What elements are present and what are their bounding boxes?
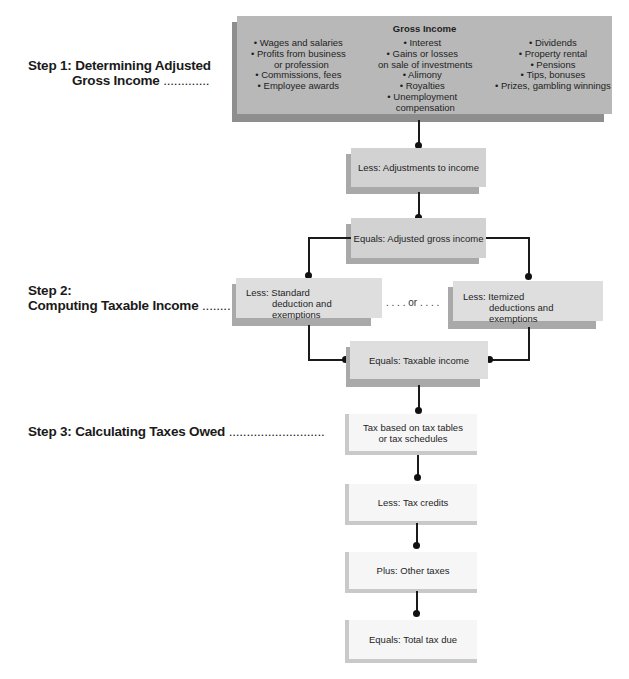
step-2-line2-wrap: Computing Taxable Income ........ [28,298,230,313]
connector-line [308,325,310,360]
taxable-income-box: Equals: Taxable income [346,341,488,387]
gross-income-title: Gross Income [237,23,612,34]
gross-income-face: Gross Income • Wages and salaries • Prof… [237,16,612,114]
agi-box: Equals: Adjusted gross income [346,218,486,264]
or-text: . . . . or . . . . [386,297,439,308]
list-item: • Employee awards [251,81,346,92]
step-1-line1: Step 1: Determining Adjusted [28,58,211,73]
income-column-1: • Wages and salaries • Profits from busi… [251,38,346,92]
tax-credits-box: Less: Tax credits [345,484,477,525]
step-3-leader: ........................... [229,424,325,439]
connector-line [528,327,530,360]
box-shadow [345,521,477,525]
step-3-line1: Step 3: Calculating Taxes Owed [28,424,225,439]
box-face: Less: Standard deduction and exemptions [236,278,382,318]
step-1-line2: Gross Income [72,73,160,88]
income-column-2: • Interest • Gains or losses on sale of … [372,38,473,114]
connector-line [308,237,310,277]
tax-based-box: Tax based on tax tables or tax schedules [345,414,477,455]
box-shadow [345,659,477,663]
adjustments-box: Less: Adjustments to income [346,148,486,194]
step-3-label: Step 3: Calculating Taxes Owed .........… [28,424,325,439]
box-face: Less: Tax credits [349,484,477,521]
connector-dot [413,610,420,617]
total-tax-due-label: Equals: Total tax due [369,634,457,645]
list-item: • Profits from business [251,49,346,60]
connector-line [528,237,530,277]
box-face: Less: Itemized deductions and exemptions [453,281,603,321]
connector-dot [414,474,421,481]
box-face: Plus: Other taxes [349,552,477,589]
connector-dot [415,407,422,414]
list-item: • Property rental [495,49,611,60]
box-shadow [345,589,477,593]
standard-deduction-box: Less: Standard deduction and exemptions [232,278,382,326]
connector-line [308,237,351,239]
step-2-line2: Computing Taxable Income [28,298,198,313]
connector-line [490,359,530,361]
box-face: Equals: Taxable income [350,341,488,379]
total-tax-due-box: Equals: Total tax due [345,620,477,663]
itemized-label-line2: deductions and exemptions [463,302,603,324]
adjustments-label: Less: Adjustments to income [358,162,479,173]
list-item: • Prizes, gambling winnings [495,81,611,92]
income-column-3: • Dividends • Property rental • Pensions… [495,38,611,92]
itemized-deduction-box: Less: Itemized deductions and exemptions [448,281,603,329]
step-1-leader: ............. [163,73,209,88]
other-taxes-label: Plus: Other taxes [377,565,450,576]
list-item: compensation [372,103,473,114]
box-face: Equals: Total tax due [349,620,477,659]
box-shadow [345,451,477,455]
connector-dot [413,542,420,549]
list-item: • Gains or losses [372,49,473,60]
standard-label-line1: Less: Standard [246,287,382,298]
tax-based-label-line2: or tax schedules [378,433,447,444]
box-face: Equals: Adjusted gross income [351,218,486,258]
standard-label-line2: deduction and exemptions [246,298,382,320]
itemized-label-line1: Less: Itemized [463,291,603,302]
or-separator: . . . . or . . . . [386,297,439,308]
step-2-line1: Step 2: [28,283,230,298]
step-2-label: Step 2: Computing Taxable Income .......… [28,283,230,313]
step-1-label: Step 1: Determining Adjusted Gross Incom… [28,58,211,88]
connector-dot [525,273,532,280]
taxable-income-label: Equals: Taxable income [369,355,469,366]
box-face: Less: Adjustments to income [351,148,486,187]
tax-credits-label: Less: Tax credits [378,497,449,508]
connector-line [486,237,529,239]
gross-income-box: Gross Income • Wages and salaries • Prof… [232,16,612,122]
step-1-line2-wrap: Gross Income ............. [28,73,211,88]
agi-label: Equals: Adjusted gross income [354,233,484,244]
box-face: Tax based on tax tables or tax schedules [349,414,477,451]
tax-based-label-line1: Tax based on tax tables [363,422,463,433]
step-2-leader: ........ [202,298,230,313]
other-taxes-box: Plus: Other taxes [345,552,477,593]
